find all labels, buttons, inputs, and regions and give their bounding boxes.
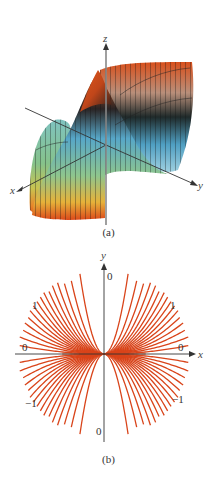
- y-axis-arrow-icon: [101, 263, 107, 270]
- caption-b: (b): [0, 453, 217, 465]
- level-curve: [80, 354, 104, 434]
- caption-a: (a): [0, 226, 217, 238]
- y-axis-label: y: [100, 249, 106, 261]
- surface-plot: x y z: [0, 0, 217, 240]
- contour-plot: x y 0 0 0 0 1 1 −1 −1: [0, 240, 217, 477]
- level-curve: [52, 286, 104, 354]
- level-label-upper-left: 1: [32, 299, 38, 311]
- level-curve: [80, 274, 104, 354]
- level-label-top: 0: [107, 270, 113, 282]
- level-curve: [104, 274, 128, 354]
- contour-figure: x y 0 0 0 0 1 1 −1 −1 (b): [0, 240, 217, 477]
- x-axis-label: x: [9, 184, 15, 196]
- level-label-bottom: 0: [96, 425, 102, 437]
- level-curve: [104, 354, 156, 422]
- level-curve: [52, 354, 104, 422]
- y-axis-arrow-icon: [190, 180, 198, 186]
- z-axis-arrow-icon: [103, 43, 109, 50]
- level-curve: [104, 354, 128, 434]
- level-label-left: 0: [22, 341, 28, 353]
- level-label-right: 0: [178, 341, 184, 353]
- z-axis-label: z: [102, 32, 108, 44]
- x-axis-label: x: [197, 348, 203, 360]
- level-label-upper-right: 1: [170, 299, 176, 311]
- surface-figure: x y z (a): [0, 0, 217, 240]
- level-label-lower-left: −1: [25, 397, 37, 409]
- x-axis-arrow-icon: [16, 186, 23, 192]
- level-curve: [104, 286, 156, 354]
- y-axis-label: y: [197, 179, 203, 191]
- level-label-lower-right: −1: [172, 393, 184, 405]
- x-axis-arrow-icon: [189, 351, 196, 357]
